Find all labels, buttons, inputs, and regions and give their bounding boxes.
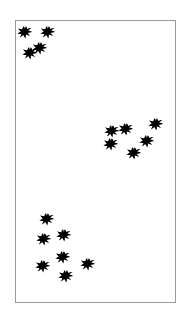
plot-area [16, 21, 175, 302]
scatter-point-marker [126, 146, 142, 162]
plot-frame [15, 20, 176, 303]
star-burst-marker-icon [39, 212, 55, 228]
star-burst-marker-icon [58, 269, 74, 285]
star-burst-marker-icon [56, 228, 72, 244]
star-burst-marker-icon [22, 46, 38, 62]
scatter-point-marker [39, 212, 55, 228]
star-burst-marker-icon [118, 122, 134, 138]
scatter-point-marker [35, 259, 51, 275]
scatter-point-marker [22, 46, 38, 62]
star-burst-marker-icon [36, 232, 52, 248]
star-burst-marker-icon [35, 259, 51, 275]
star-burst-marker-icon [40, 25, 56, 41]
scatter-point-marker [139, 134, 155, 150]
star-burst-marker-icon [148, 117, 164, 133]
scatter-plot-figure [0, 0, 190, 322]
scatter-point-marker [80, 257, 96, 273]
scatter-point-marker [58, 269, 74, 285]
scatter-point-marker [55, 250, 71, 266]
star-burst-marker-icon [139, 134, 155, 150]
star-burst-marker-icon [80, 257, 96, 273]
scatter-point-marker [40, 25, 56, 41]
star-burst-marker-icon [126, 146, 142, 162]
scatter-point-marker [17, 25, 33, 41]
scatter-point-marker [56, 228, 72, 244]
scatter-point-marker [103, 137, 119, 153]
star-burst-marker-icon [103, 137, 119, 153]
star-burst-marker-icon [17, 25, 33, 41]
scatter-point-marker [148, 117, 164, 133]
star-burst-marker-icon [55, 250, 71, 266]
scatter-point-marker [118, 122, 134, 138]
scatter-point-marker [36, 232, 52, 248]
